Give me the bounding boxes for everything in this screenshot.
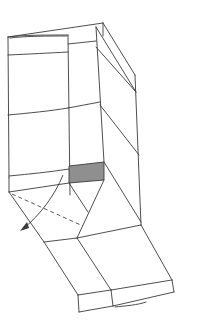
- lower-flap-right: [111, 225, 174, 307]
- lower-body-edges: [9, 178, 141, 242]
- front-left-panel: [8, 35, 70, 195]
- right-side-panel: [96, 23, 141, 225]
- front-middle-panel: [68, 27, 104, 162]
- dashed-fold-line: [12, 194, 83, 226]
- box-top-edges: [8, 23, 103, 38]
- fold-arrow-icon: [20, 175, 63, 231]
- folding-diagram: [0, 0, 216, 325]
- lower-flap-left: [44, 238, 113, 312]
- shaded-square: [69, 162, 104, 183]
